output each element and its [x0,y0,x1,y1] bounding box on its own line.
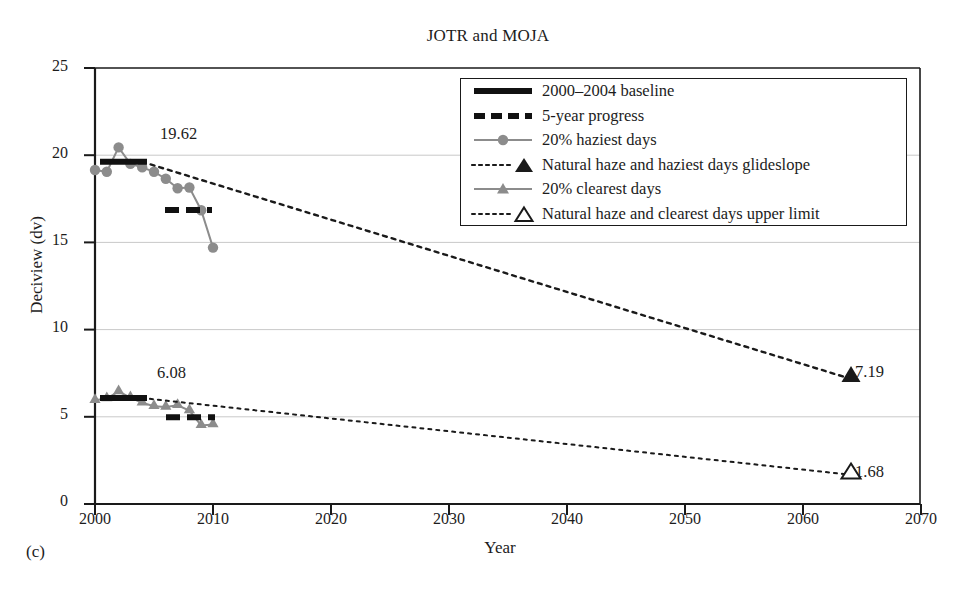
thick-dashed-line-icon [470,106,536,126]
dotted-line-filled-triangle-icon [470,155,536,175]
dotted-line-open-triangle-icon [470,204,536,224]
legend-item-clearest-days: 20% clearest days [461,177,906,202]
baseline-segments [100,162,147,398]
legend-label-progress: 5-year progress [542,108,644,125]
legend-item-haziest-days: 20% haziest days [461,128,906,153]
legend-label-haziest-glideslope: Natural haze and haziest days glideslope [542,157,810,174]
legend-label-baseline: 2000–2004 baseline [542,83,674,100]
legend-item-progress: 5-year progress [461,104,906,129]
legend-label-haziest-days: 20% haziest days [542,132,657,149]
line-triangle-marker-icon [470,179,536,199]
series-clearest-days [89,385,218,429]
legend-item-clearest-upper-limit: Natural haze and clearest days upper lim… [461,202,906,227]
glideslope-clearest-days [142,398,861,479]
figure-container: JOTR and MOJA Deciview (dv) Year (c) 25 … [0,0,976,590]
thick-solid-line-icon [470,81,536,101]
legend-item-baseline: 2000–2004 baseline [461,79,906,104]
y-tick-marks [84,68,95,504]
x-tick-marks [95,504,921,515]
series-haziest-days [90,142,218,253]
legend-item-haziest-glideslope: Natural haze and haziest days glideslope [461,153,906,178]
legend-label-clearest-upper-limit: Natural haze and clearest days upper lim… [542,206,820,223]
line-circle-marker-icon [470,130,536,150]
legend-label-clearest-days: 20% clearest days [542,181,661,198]
progress-segments [165,210,215,417]
legend: 2000–2004 baseline 5-year progress 20% h… [460,78,907,226]
